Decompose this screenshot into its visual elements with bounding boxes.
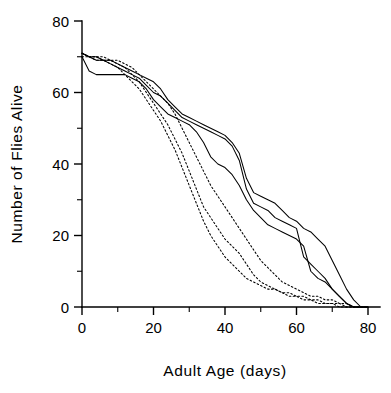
axes	[82, 21, 380, 307]
x-tick-label: 40	[217, 319, 234, 336]
y-tick-label: 20	[52, 227, 69, 244]
y-tick-label: 60	[52, 84, 69, 101]
x-axis-title: Adult Age (days)	[163, 362, 286, 379]
curve-solid-cohort-1	[82, 53, 368, 307]
curve-solid-cohort-3	[82, 57, 368, 307]
y-axis-title: Number of Flies Alive	[8, 84, 25, 243]
axis-ticks	[74, 21, 368, 315]
survival-curve-figure: 020406080020406080 Adult Age (days) Numb…	[0, 0, 391, 393]
y-tick-label: 80	[52, 13, 69, 30]
curve-dotted-cohort-1	[82, 53, 368, 307]
y-tick-label: 0	[61, 299, 69, 316]
y-tick-label: 40	[52, 156, 69, 173]
x-tick-label: 0	[78, 319, 86, 336]
x-tick-label: 80	[360, 319, 377, 336]
x-tick-label: 20	[145, 319, 162, 336]
data-curves	[82, 53, 368, 307]
curve-solid-cohort-2	[82, 53, 368, 307]
axis-tick-labels: 020406080020406080	[52, 13, 376, 337]
x-tick-label: 60	[288, 319, 305, 336]
chart-canvas: 020406080020406080 Adult Age (days) Numb…	[0, 0, 391, 393]
curve-dotted-cohort-3	[82, 57, 368, 307]
curve-dotted-cohort-2	[82, 53, 368, 307]
